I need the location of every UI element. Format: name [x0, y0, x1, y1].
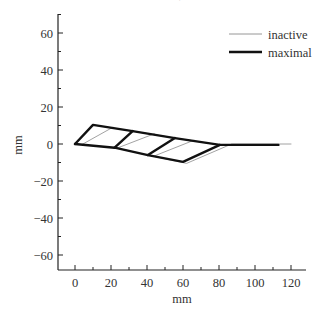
- x-tick-label: 100: [246, 276, 265, 290]
- legend: inactive maximal: [229, 28, 312, 60]
- series-segment: [148, 138, 175, 155]
- cropped-title-fragment: ·: [178, 0, 181, 5]
- y-tick-label: 60: [41, 27, 54, 41]
- x-tick-label: 40: [141, 276, 154, 290]
- series-segment: [75, 144, 220, 162]
- x-tick-label: 80: [213, 276, 226, 290]
- x-axis-label: mm: [172, 292, 192, 306]
- y-tick-label: 20: [41, 101, 54, 115]
- x-tick-label: 0: [72, 276, 78, 290]
- y-tick-label: 40: [41, 64, 54, 78]
- y-tick-label: −40: [33, 212, 53, 226]
- x-ticks: 020406080100120: [58, 265, 300, 290]
- y-tick-label: −20: [33, 175, 53, 189]
- y-tick-label: −60: [33, 249, 53, 263]
- legend-label-inactive: inactive: [268, 28, 308, 42]
- series-maximal: [75, 125, 278, 162]
- series-segment: [75, 125, 278, 145]
- y-axis-label: mm: [11, 135, 25, 155]
- x-tick-label: 120: [282, 276, 301, 290]
- chart: · 020406080100120 −60−40−200204060 inact…: [0, 0, 327, 319]
- legend-label-maximal: maximal: [268, 46, 312, 60]
- plot-series: [75, 125, 291, 163]
- x-tick-label: 60: [177, 276, 190, 290]
- axes: 020406080100120 −60−40−200204060: [33, 14, 306, 290]
- x-tick-label: 20: [105, 276, 118, 290]
- y-tick-label: 0: [47, 138, 53, 152]
